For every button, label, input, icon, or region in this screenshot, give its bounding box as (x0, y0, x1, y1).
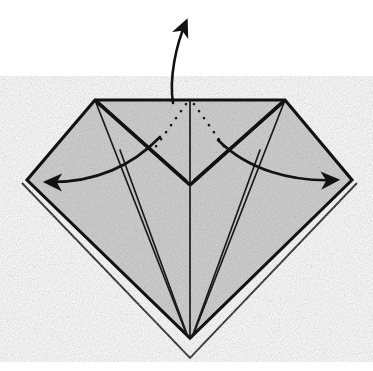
center-v-vertex-point (188, 183, 192, 187)
up-arrow-curve (172, 22, 186, 103)
left-vertex-point (25, 178, 29, 182)
origami-diagram-svg (0, 0, 373, 371)
top-left-corner-point (93, 98, 97, 102)
right-vertex-point (350, 178, 354, 182)
origami-figure-root (0, 0, 373, 371)
top-right-corner-point (283, 98, 287, 102)
bottom-vertex-point (188, 356, 192, 360)
